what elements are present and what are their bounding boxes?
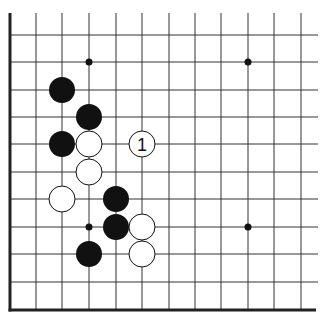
star-point-icon xyxy=(86,59,93,66)
black-stone-icon xyxy=(76,104,102,130)
white-stone-icon xyxy=(49,186,75,212)
white-stone-icon xyxy=(129,214,155,240)
black-stone-icon xyxy=(76,241,102,267)
star-point-icon xyxy=(86,224,93,231)
go-board: 1 xyxy=(0,0,324,321)
black-stone xyxy=(76,241,102,267)
black-stone-icon xyxy=(103,186,129,212)
star-point-icon xyxy=(245,224,252,231)
white-stone-icon xyxy=(76,159,102,185)
white-stone xyxy=(49,186,75,212)
black-stone-icon xyxy=(103,214,129,240)
board-edges xyxy=(9,13,317,312)
white-stone-icon xyxy=(76,131,102,157)
black-stone xyxy=(103,186,129,212)
grid-lines xyxy=(10,13,318,310)
white-stone xyxy=(129,241,155,267)
white-stone: 1 xyxy=(129,131,155,157)
white-stone xyxy=(76,131,102,157)
white-stone-icon xyxy=(129,241,155,267)
black-stone-icon xyxy=(49,77,75,103)
black-stone xyxy=(49,131,75,157)
star-point-icon xyxy=(245,59,252,66)
white-stone xyxy=(129,214,155,240)
black-stone xyxy=(49,77,75,103)
black-stone xyxy=(76,104,102,130)
black-stone-icon xyxy=(49,131,75,157)
white-stone xyxy=(76,159,102,185)
black-stone xyxy=(103,214,129,240)
move-number-label: 1 xyxy=(137,135,147,155)
